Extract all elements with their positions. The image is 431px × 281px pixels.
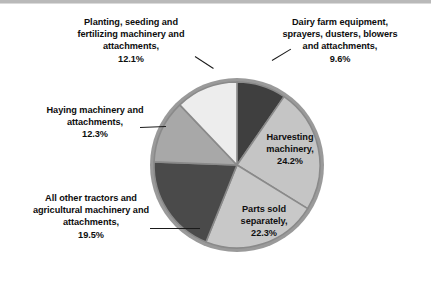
slice-label-haying: Haying machinery and attachments, 12.3% — [22, 104, 168, 141]
slice-label-all-other-tractors: All other tractors and agricultural mach… — [8, 192, 174, 241]
slice-label-harvesting: Harvesting machinery, 24.2% — [252, 131, 328, 168]
top-border-rule-secondary — [0, 3, 431, 4]
slice-label-parts-sold-separately: Parts sold separately, 22.3% — [224, 203, 304, 240]
slice-label-dairy: Dairy farm equipment, sprayers, dusters,… — [254, 16, 426, 65]
slice-label-planting: Planting, seeding and fertilizing machin… — [52, 16, 210, 65]
leader-line-all-other-tractors — [150, 228, 200, 229]
pie-chart-figure: Planting, seeding and fertilizing machin… — [0, 0, 431, 281]
